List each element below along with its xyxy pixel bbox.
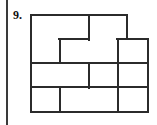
- tile-3: [118, 39, 148, 63]
- tile-6: [118, 63, 148, 87]
- tile-5: [89, 63, 118, 87]
- tile-7: [60, 87, 118, 112]
- tessellation-figure: [0, 0, 157, 125]
- tile-8: [118, 87, 148, 112]
- worksheet-page: 9.: [0, 0, 157, 125]
